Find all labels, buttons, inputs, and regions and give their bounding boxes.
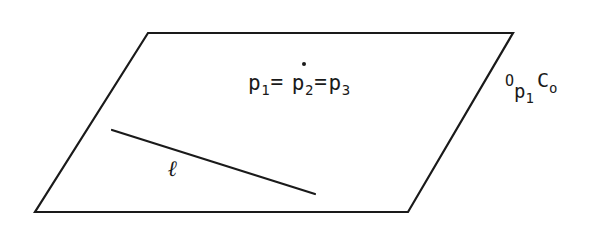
- parallelogram-plane: [35, 33, 513, 212]
- term-p2: p2: [292, 73, 314, 97]
- p-symbol-3: p: [329, 71, 342, 95]
- figure-container: p1=p2=p3 ℓ Op1Co: [0, 0, 603, 225]
- diagram-canvas: [0, 0, 603, 225]
- p-symbol-1: p: [248, 71, 261, 95]
- corner-c-term: Co: [537, 70, 557, 95]
- corner-c-symbol: C: [537, 68, 549, 92]
- equals-sign-1: =: [271, 72, 284, 93]
- p-symbol-2: p: [292, 71, 305, 95]
- line-segment-ell: [112, 130, 315, 194]
- equation-label: p1=p2=p3: [248, 72, 350, 97]
- term-p3: p3: [329, 73, 351, 97]
- corner-p-term: p1: [514, 82, 534, 105]
- corner-o-upper: O: [505, 74, 514, 89]
- term-p1: p1: [248, 73, 270, 97]
- corner-p-subscript: 1: [525, 90, 533, 106]
- corner-annotation-label: Op1Co: [505, 70, 557, 105]
- corner-c-subscript: o: [549, 80, 557, 96]
- ell-line-label: ℓ: [168, 157, 177, 179]
- subscript-1: 1: [261, 82, 269, 98]
- subscript-3: 3: [342, 82, 350, 98]
- equals-sign-2: =: [314, 72, 327, 93]
- overdot-icon: [302, 62, 306, 66]
- subscript-2: 2: [305, 82, 313, 98]
- corner-p-symbol: p: [514, 80, 525, 102]
